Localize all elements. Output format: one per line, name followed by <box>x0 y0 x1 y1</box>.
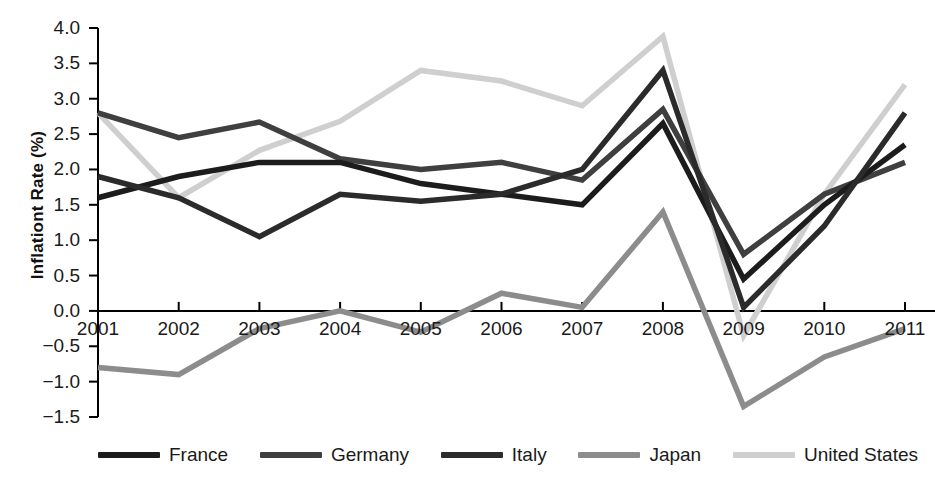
legend-label: Japan <box>649 444 701 466</box>
x-axis-tick-label: 2008 <box>642 318 684 340</box>
legend-item-germany[interactable]: Germany <box>260 444 409 466</box>
x-axis-tick-label: 2002 <box>158 318 200 340</box>
legend-swatch-icon <box>578 452 640 458</box>
x-axis-tick-label: 2010 <box>803 318 845 340</box>
legend-swatch-icon <box>98 452 160 458</box>
x-axis-tick-label: 2003 <box>238 318 280 340</box>
inflation-rate-line-chart: Inflationt Rate (%) 4.03.53.02.52.01.51.… <box>0 0 935 478</box>
chart-legend: FranceGermanyItalyJapanUnited States <box>98 440 918 470</box>
series-line-germany <box>98 109 905 254</box>
x-axis-tick-label: 2007 <box>561 318 603 340</box>
series-line-italy <box>98 70 905 307</box>
legend-item-united-states[interactable]: United States <box>733 444 918 466</box>
legend-swatch-icon <box>441 452 503 458</box>
plot-area <box>0 0 935 478</box>
legend-label: United States <box>804 444 918 466</box>
x-axis-tick-label: 2001 <box>77 318 119 340</box>
x-axis-tick-label: 2011 <box>885 318 926 340</box>
legend-item-italy[interactable]: Italy <box>441 444 547 466</box>
x-axis-tick-label: 2006 <box>480 318 522 340</box>
legend-swatch-icon <box>733 452 795 458</box>
legend-label: France <box>169 444 228 466</box>
legend-item-france[interactable]: France <box>98 444 228 466</box>
legend-label: Germany <box>331 444 409 466</box>
legend-swatch-icon <box>260 452 322 458</box>
series-line-france <box>98 123 905 279</box>
legend-item-japan[interactable]: Japan <box>578 444 701 466</box>
x-axis-tick-label: 2004 <box>319 318 361 340</box>
x-axis-tick-label: 2009 <box>722 318 764 340</box>
x-axis-tick-label: 2005 <box>400 318 442 340</box>
legend-label: Italy <box>512 444 547 466</box>
